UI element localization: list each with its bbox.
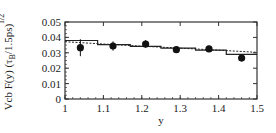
x-tick-label: 1.3: [173, 102, 187, 114]
data-point: [77, 44, 84, 51]
y-tick-label: 0.04: [42, 31, 62, 43]
x-tick-label: 1: [62, 102, 68, 114]
x-tick-label: 1.2: [135, 102, 149, 114]
plot-axes: [65, 22, 257, 99]
x-axis-label: y: [158, 114, 164, 126]
ylabel-text: /1.5ps): [2, 24, 15, 55]
y-tick-label: 0.01: [42, 78, 61, 90]
data-point: [173, 46, 180, 53]
y-tick-label: 0: [56, 93, 62, 105]
data-point: [238, 54, 245, 61]
y-tick-label: 0.03: [42, 47, 62, 59]
data-point: [142, 40, 149, 47]
dashed-fit-curve: [65, 42, 257, 53]
y-tick-label: 0.05: [42, 16, 62, 28]
ylabel-text: Vcb F(y) (τ: [2, 59, 15, 110]
data-point: [109, 42, 116, 49]
ylabel-superscript: 1/2: [0, 14, 6, 24]
y-axis-label: Vcb F(y) (τB/1.5ps)1/2: [0, 14, 17, 111]
x-tick-label: 1.1: [97, 102, 111, 114]
y-axis-label-text: Vcb F(y) (τB/1.5ps)1/2: [0, 14, 17, 111]
plot-series: [65, 39, 257, 61]
y-tick-label: 0.02: [42, 62, 61, 74]
x-tick-label: 1.4: [212, 102, 226, 114]
data-point: [205, 45, 212, 52]
chart: Vcb F(y) (τB/1.5ps)1/2 11.11.21.31.41.50…: [0, 0, 276, 133]
plot-frame: [65, 22, 257, 99]
x-tick-label: 1.5: [250, 102, 264, 114]
